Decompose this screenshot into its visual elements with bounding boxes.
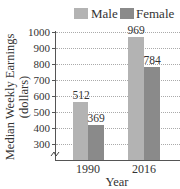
gridline — [56, 48, 180, 49]
value-label-1990-male: 512 — [68, 89, 94, 101]
value-label-1990-female: 369 — [83, 112, 109, 124]
y-tick-label: 500 — [16, 107, 50, 118]
value-label-2016-female: 784 — [139, 54, 165, 66]
bar-1990-female — [88, 125, 104, 160]
y-tick-label: 300 — [16, 139, 50, 150]
legend-label-male: Male — [91, 7, 118, 20]
value-label-2016-male: 969 — [123, 24, 149, 36]
x-tick-label-1990: 1990 — [68, 163, 108, 175]
axis-break-icon — [50, 149, 60, 159]
bar-2016-female — [144, 67, 160, 160]
y-tick-label: 600 — [16, 91, 50, 102]
y-axis-line — [55, 31, 56, 161]
y-tick-label: 800 — [16, 59, 50, 70]
x-axis-line — [55, 160, 180, 161]
bar-1990-male — [73, 102, 88, 160]
y-tick-label: 1000 — [16, 27, 50, 38]
y-tick-label: 900 — [16, 43, 50, 54]
legend-swatch-male — [74, 8, 88, 19]
x-tick-label-2016: 2016 — [124, 163, 164, 175]
legend-swatch-female — [120, 8, 134, 19]
gridline — [56, 32, 180, 33]
x-axis-label: Year — [97, 176, 137, 188]
y-tick-label: 700 — [16, 75, 50, 86]
gridline — [56, 80, 180, 81]
y-tick-label: 400 — [16, 123, 50, 134]
legend-label-female: Female — [136, 7, 174, 20]
